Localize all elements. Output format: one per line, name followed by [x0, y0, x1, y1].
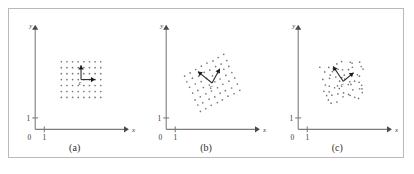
axes: [295, 25, 392, 133]
y-tick-label-1: 1: [26, 114, 30, 123]
basis-vectors: [333, 66, 353, 81]
y-axis-label: y: [160, 22, 165, 29]
plot-panel-b: yx011c(b): [140, 9, 271, 157]
y-tick-label-1: 1: [289, 114, 293, 123]
panel-caption: (b): [140, 142, 271, 153]
center-point-label: c: [210, 84, 213, 90]
panel-caption: (a): [9, 142, 140, 153]
y-axis-label: y: [291, 22, 296, 29]
x-tick-label-1: 1: [42, 133, 46, 142]
y-tick-label-1: 1: [158, 114, 162, 123]
panel-caption: (c): [272, 142, 403, 153]
x-axis-label: x: [262, 126, 267, 133]
y-axis-label: y: [28, 22, 33, 29]
x-tick-label-1: 1: [305, 133, 309, 142]
origin-tick-label: 0: [290, 133, 294, 142]
plot-panel-a: yx011c(a): [9, 9, 140, 157]
plot-panel-c: yx011c(c): [272, 9, 403, 157]
origin-tick-label: 0: [27, 133, 31, 142]
center-point-label: c: [340, 82, 343, 88]
figure-frame: yx011c(a)yx011c(b)yx011c(c): [8, 8, 404, 158]
center-point-label: c: [79, 81, 82, 87]
origin-tick-label: 0: [159, 133, 163, 142]
x-tick-label-1: 1: [174, 133, 178, 142]
x-axis-label: x: [131, 126, 136, 133]
axes: [163, 25, 260, 133]
panel-row: yx011c(a)yx011c(b)yx011c(c): [9, 9, 403, 157]
x-axis-label: x: [394, 126, 399, 133]
